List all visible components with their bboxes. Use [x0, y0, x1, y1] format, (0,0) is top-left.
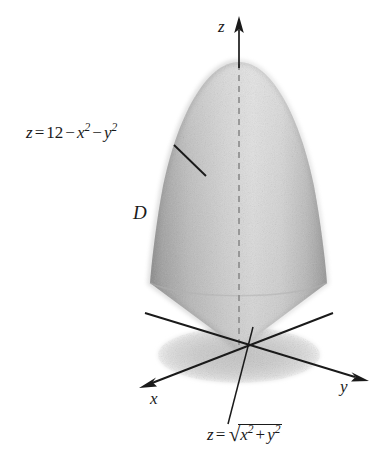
paraboloid-eq-minus-2: − [90, 123, 104, 142]
paraboloid-eq-equals: = [33, 123, 47, 142]
cone-eq-radicand: x2+y2 [238, 424, 282, 443]
z-axis-label: z [218, 18, 225, 35]
cone-eq-term-x: x [240, 425, 248, 444]
paraboloid-eq-exp-y: 2 [111, 121, 117, 134]
cone-eq-lhs: z [207, 425, 214, 444]
solid-region-diagram [0, 0, 386, 471]
cone-eq-radical-group: √x2+y2 [227, 424, 282, 445]
paraboloid-eq-constant: 12 [46, 123, 63, 142]
y-axis-label: y [340, 378, 348, 395]
paraboloid-equation-label: z=12−x2−y2 [26, 124, 117, 141]
cone-equation-label: z=√x2+y2 [207, 424, 282, 445]
cone-eq-exp-y: 2 [275, 423, 281, 436]
paraboloid-eq-minus-1: − [63, 123, 77, 142]
figure-container: z=12−x2−y2 z=√x2+y2 D x y z [0, 0, 386, 471]
paraboloid-eq-lhs: z [26, 123, 33, 142]
cone-eq-term-y: y [267, 425, 275, 444]
region-label-d: D [133, 203, 147, 222]
cone-eq-plus: + [253, 425, 267, 444]
cone-eq-equals: = [214, 425, 228, 444]
solid-region-body [145, 55, 335, 355]
x-axis-label: x [150, 390, 158, 407]
